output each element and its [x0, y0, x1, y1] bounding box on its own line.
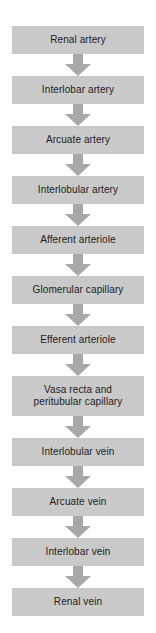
arrow-down-block-icon	[65, 354, 91, 376]
flow-node: Interlobular artery	[12, 176, 144, 204]
flow-node: Interlobar vein	[12, 538, 144, 566]
flow-node: Renal vein	[12, 588, 144, 616]
arrow-down-block-icon	[65, 566, 91, 588]
flow-node-label: Afferent arteriole	[40, 234, 116, 246]
flow-node-label: Renal artery	[50, 34, 106, 46]
flow-node-label: Arcuate artery	[46, 134, 110, 146]
flow-node-label: Vasa recta and peritubular capillary	[34, 384, 123, 408]
flow-node-label: Glomerular capillary	[33, 284, 124, 296]
flow-node: Efferent arteriole	[12, 326, 144, 354]
arrow-down-block-icon	[65, 516, 91, 538]
arrow-down-block-icon	[65, 304, 91, 326]
flowchart: Renal arteryInterlobar arteryArcuate art…	[0, 0, 156, 633]
flow-node: Arcuate artery	[12, 126, 144, 154]
arrow-down-block-icon	[65, 204, 91, 226]
flow-node-label: Renal vein	[54, 596, 102, 608]
flow-node: Renal artery	[12, 26, 144, 54]
arrow-down-block-icon	[65, 466, 91, 488]
arrow-down-block-icon	[65, 154, 91, 176]
arrow-down-block-icon	[65, 54, 91, 76]
flow-node-label: Interlobar artery	[42, 84, 114, 96]
flow-node-label: Interlobular artery	[38, 184, 118, 196]
flow-node: Vasa recta and peritubular capillary	[12, 376, 144, 416]
flow-node-label: Interlobular vein	[42, 446, 115, 458]
flow-node: Interlobar artery	[12, 76, 144, 104]
flow-node: Arcuate vein	[12, 488, 144, 516]
flow-node-label: Interlobar vein	[46, 546, 111, 558]
flow-node: Glomerular capillary	[12, 276, 144, 304]
arrow-down-block-icon	[65, 416, 91, 438]
flow-node-label: Arcuate vein	[50, 496, 107, 508]
flow-node: Afferent arteriole	[12, 226, 144, 254]
flow-node-label: Efferent arteriole	[40, 334, 116, 346]
arrow-down-block-icon	[65, 254, 91, 276]
arrow-down-block-icon	[65, 104, 91, 126]
flow-node: Interlobular vein	[12, 438, 144, 466]
